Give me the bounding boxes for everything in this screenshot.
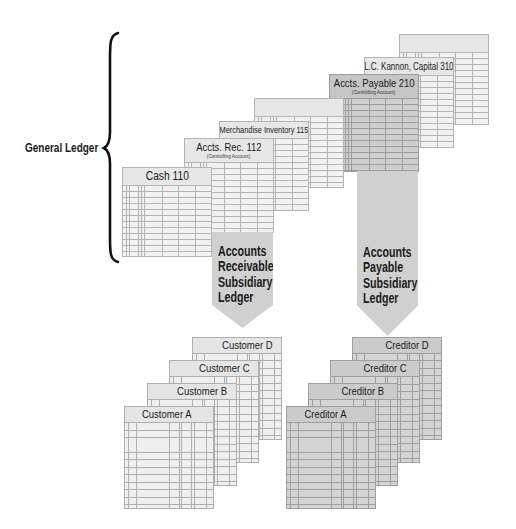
arrow-label-line: Ledger xyxy=(363,291,417,306)
ledger-card-cash: Cash 110 xyxy=(122,167,212,257)
card-grid xyxy=(123,186,211,256)
card-header: Customer D xyxy=(193,338,281,354)
curly-brace-icon xyxy=(98,28,122,268)
creditor-name: Creditor B xyxy=(342,386,385,397)
card-header: Customer A xyxy=(125,407,213,423)
customer-name: Customer C xyxy=(199,363,249,374)
card-header: Cash 110 xyxy=(123,168,211,186)
account-title: L.C. Kannon, Capital 310 xyxy=(364,62,453,72)
creditor-name: Creditor D xyxy=(385,340,428,351)
arrow-label: Accounts Payable Subsidiary Ledger xyxy=(363,245,435,306)
card-header: Creditor D xyxy=(353,338,441,354)
card-header: Creditor C xyxy=(331,361,419,377)
account-subtitle: (Controlling Account) xyxy=(207,154,250,160)
customer-name: Customer A xyxy=(142,409,191,420)
arrow-label-line: Accounts xyxy=(363,245,417,260)
card-grid xyxy=(125,423,213,508)
card-header: Creditor B xyxy=(309,384,397,400)
card-grid xyxy=(287,423,375,508)
accounts-payable-arrow: Accounts Payable Subsidiary Ledger xyxy=(357,171,418,336)
arrow-label-line: Payable xyxy=(363,260,417,275)
arrow-label-line: Subsidiary xyxy=(218,275,274,290)
customer-name: Customer B xyxy=(177,386,227,397)
card-header: Customer C xyxy=(170,361,258,377)
card-header xyxy=(255,99,343,117)
general-ledger-label: General Ledger xyxy=(25,140,98,155)
card-header: Customer B xyxy=(148,384,236,400)
arrow-label-line: Receivable xyxy=(218,259,274,274)
account-title: Accts. Payable 210 xyxy=(334,78,415,90)
arrow-label: Accounts Receivable Subsidiary Ledger xyxy=(218,244,291,305)
card-header: Accts. Payable 210 (Controlling Account) xyxy=(330,75,418,99)
arrow-label-line: Subsidiary xyxy=(363,276,417,291)
account-subtitle: (Controlling Account) xyxy=(352,90,395,96)
account-title: Merchandise Inventory 115 xyxy=(220,125,309,135)
card-header: Accts. Rec. 112 (Controlling Account) xyxy=(185,139,273,163)
card-header xyxy=(400,35,488,53)
arrow-label-line: Ledger xyxy=(218,290,274,305)
creditor-card-a: Creditor A xyxy=(286,406,376,509)
card-header: Creditor A xyxy=(287,407,375,423)
creditor-name: Creditor C xyxy=(363,363,406,374)
customer-name: Customer D xyxy=(222,340,272,351)
accounts-receivable-arrow: Accounts Receivable Subsidiary Ledger xyxy=(212,232,273,328)
card-header: Merchandise Inventory 115 xyxy=(220,122,308,139)
arrow-label-line: Accounts xyxy=(218,244,274,259)
account-title: Accts. Rec. 112 xyxy=(196,142,261,154)
customer-card-a: Customer A xyxy=(124,406,214,509)
creditor-name: Creditor A xyxy=(304,409,346,420)
account-title: Cash 110 xyxy=(145,170,188,183)
